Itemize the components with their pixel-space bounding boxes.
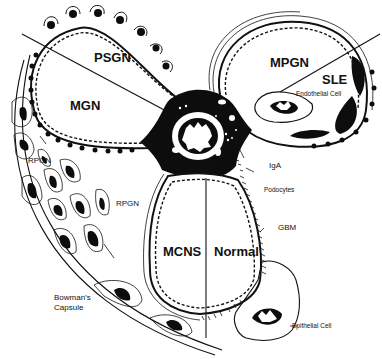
label-psgn: PSGN — [94, 50, 131, 65]
label-epithelial-cell: Epithelial Cell — [292, 322, 332, 330]
label-gbm: GBM — [278, 223, 297, 232]
label-normal: Normal — [214, 244, 259, 259]
label-bowmans-line2: Capsule — [54, 303, 84, 312]
label-endothelial-cell: Endothelial Cell — [296, 90, 342, 97]
label-iga: IgA — [269, 161, 282, 170]
label-mgn: MGN — [70, 98, 100, 113]
label-mpgn: MPGN — [270, 55, 309, 70]
label-mesangium: M — [205, 157, 212, 166]
label-rpgn-mid: RPGN — [116, 199, 139, 208]
label-rpgn-top: RPGN — [28, 156, 51, 165]
glomerulus-diagram: PSGN MGN MPGN SLE Endothelial Cell M IgA… — [0, 0, 382, 359]
label-bowmans-line1: Bowman's — [54, 293, 91, 302]
label-podocytes: Podocytes — [264, 186, 295, 194]
label-mcns: MCNS — [163, 244, 202, 259]
label-sle: SLE — [322, 72, 348, 87]
